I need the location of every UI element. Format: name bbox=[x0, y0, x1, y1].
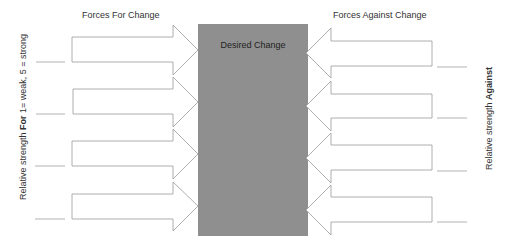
right-arrow-icon bbox=[73, 77, 198, 127]
left-strength-label: Relative strength For 1= weak, 5 = stron… bbox=[18, 34, 28, 200]
left-arrow-icon bbox=[306, 185, 432, 235]
left-arrow-icon bbox=[306, 28, 432, 78]
left-arrows bbox=[72, 25, 198, 231]
label-bold: Against bbox=[484, 67, 494, 100]
right-arrow-icon bbox=[72, 182, 198, 231]
label-prefix: Relative strength bbox=[484, 100, 494, 170]
left-arrow-icon bbox=[306, 81, 432, 131]
left-arrow-icon bbox=[306, 133, 432, 183]
label-prefix: Relative strength bbox=[18, 130, 28, 200]
label-bold: For bbox=[18, 115, 28, 130]
label-suffix: 1= weak, 5 = strong bbox=[18, 34, 28, 116]
right-strength-label: Relative strength Against bbox=[484, 67, 494, 170]
right-arrow-icon bbox=[72, 129, 198, 179]
arrows-layer bbox=[0, 0, 506, 248]
right-arrow-icon bbox=[72, 25, 198, 75]
right-arrows bbox=[306, 28, 432, 235]
